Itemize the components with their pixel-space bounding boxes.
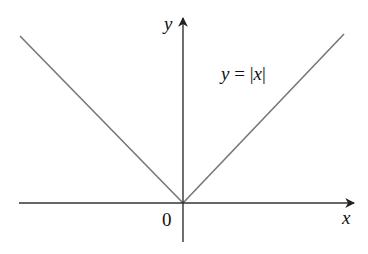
function-label-bar-right: | (262, 63, 266, 84)
y-axis-label: y (162, 13, 173, 34)
curve-left-branch (20, 36, 183, 203)
function-label-eq: = (229, 63, 249, 84)
function-label-lhs: y (219, 63, 230, 84)
x-axis-label: x (341, 207, 351, 228)
origin-label: 0 (162, 209, 172, 230)
function-label: y = |x| (219, 63, 266, 84)
curve-right-branch (183, 34, 344, 203)
abs-value-graph: y x 0 y = |x| (0, 0, 368, 254)
